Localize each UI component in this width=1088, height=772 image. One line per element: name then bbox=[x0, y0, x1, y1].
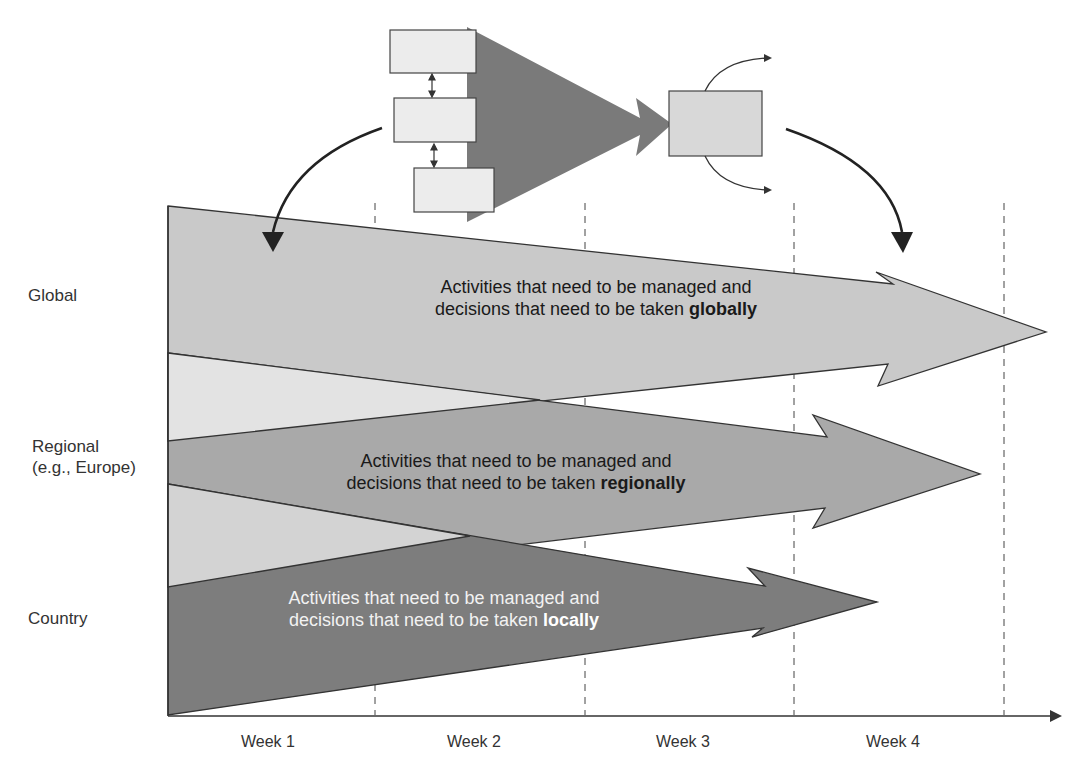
curved-arrow-left bbox=[273, 128, 382, 232]
week-label-1: Week 1 bbox=[241, 733, 295, 751]
output-arrowhead-1 bbox=[764, 54, 772, 62]
country-arrow-text: Activities that need to be managed and d… bbox=[224, 587, 664, 631]
week-label-4: Week 4 bbox=[866, 733, 920, 751]
curved-arrow-right bbox=[786, 129, 902, 232]
regional-text-line1: Activities that need to be managed and bbox=[296, 450, 736, 472]
merged-box bbox=[669, 91, 762, 156]
regional-text-prefix: decisions that need to be taken bbox=[346, 473, 600, 493]
week-label-2: Week 2 bbox=[447, 733, 501, 751]
global-arrow-text: Activities that need to be managed and d… bbox=[376, 276, 816, 320]
country-text-bold: locally bbox=[543, 610, 599, 630]
diagram-canvas bbox=[0, 0, 1088, 772]
level-label-global: Global bbox=[28, 285, 77, 306]
input-box-3 bbox=[414, 168, 494, 212]
curved-arrow-right-head bbox=[891, 232, 913, 253]
regional-text-bold: regionally bbox=[601, 473, 686, 493]
funnel-shape bbox=[467, 27, 672, 222]
input-box-1 bbox=[390, 30, 476, 73]
regional-text-line2: decisions that need to be taken regional… bbox=[296, 472, 736, 494]
global-text-bold: globally bbox=[689, 299, 757, 319]
global-text-line2: decisions that need to be taken globally bbox=[376, 298, 816, 320]
level-label-country: Country bbox=[28, 608, 88, 629]
level-label-regional-line2: (e.g., Europe) bbox=[32, 457, 136, 478]
global-text-line1: Activities that need to be managed and bbox=[376, 276, 816, 298]
country-text-prefix: decisions that need to be taken bbox=[289, 610, 543, 630]
level-label-regional-line1: Regional bbox=[32, 436, 136, 457]
x-axis-arrowhead bbox=[1050, 710, 1062, 722]
input-box-2 bbox=[394, 98, 476, 142]
level-label-regional: Regional (e.g., Europe) bbox=[32, 436, 136, 478]
country-text-line2: decisions that need to be taken locally bbox=[224, 609, 664, 631]
output-arrowhead-2 bbox=[764, 186, 772, 194]
global-text-prefix: decisions that need to be taken bbox=[435, 299, 689, 319]
regional-arrow-text: Activities that need to be managed and d… bbox=[296, 450, 736, 494]
country-text-line1: Activities that need to be managed and bbox=[224, 587, 664, 609]
week-label-3: Week 3 bbox=[656, 733, 710, 751]
